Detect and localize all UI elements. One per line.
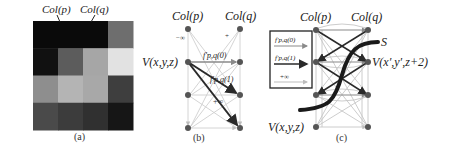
legend-label-f0: f′p,q(0): [275, 36, 296, 44]
surface-label-s: S: [381, 35, 387, 49]
intensity-grid: [33, 21, 134, 131]
grid-cell: [33, 48, 59, 76]
grid-cell: [33, 21, 59, 49]
grid-cell: [58, 21, 84, 49]
edge-inf: [188, 62, 237, 125]
grid-cell: [33, 76, 59, 104]
edge-label-f1: f′p,q(1): [210, 75, 234, 84]
panel-a: Col(p) Col(q) (a): [33, 3, 134, 143]
grid-cell: [83, 48, 109, 76]
grid-cell: [108, 103, 134, 131]
edge-label-f0: f′p,q(0): [203, 51, 227, 60]
col-q-label-a: Col(q): [80, 3, 109, 16]
grid-cell: [83, 76, 109, 104]
grid-cell: [108, 48, 134, 76]
col-q-label-c: Col(q): [351, 10, 382, 24]
grid-cell: [108, 76, 134, 104]
legend-label-f1: f′p,q(1): [275, 54, 296, 62]
col-p-label-b: Col(p): [172, 9, 203, 23]
panel-c: f′p,q(0) f′p,q(1) +∞: [268, 10, 428, 144]
minus-inf-label-b: −∞: [176, 34, 185, 42]
vertex-top-label-c: V(x′,y′,z+2): [372, 55, 428, 69]
col-q-pointer: [91, 15, 95, 22]
col-q-label-b: Col(q): [225, 9, 256, 23]
plus-label-top-b: +: [225, 32, 229, 40]
grid-cell: [58, 48, 84, 76]
col-p-pointer: [57, 15, 60, 22]
caption-b: (b): [193, 132, 205, 144]
caption-c: (c): [336, 132, 347, 144]
panel-b: −∞ + Col(p) Col(q) V(x,y,z) f′p,q(0) f′p…: [142, 9, 256, 144]
vertex-label-b: V(x,y,z): [142, 55, 178, 69]
grid-cell: [108, 21, 134, 49]
grid-cell: [83, 21, 109, 49]
grid-cell: [83, 103, 109, 131]
grid-cell: [58, 103, 84, 131]
legend-label-inf: +∞: [280, 73, 289, 81]
vertex-bottom-label-c: V(x,y,z): [268, 120, 304, 134]
caption-a: (a): [74, 131, 85, 143]
figure-canvas: Col(p) Col(q) (a) −∞ +: [0, 0, 452, 150]
col-p-label-c: Col(p): [300, 10, 331, 24]
grid-cell: [58, 76, 84, 104]
grid-cell: [33, 103, 59, 131]
col-p-label-a: Col(p): [42, 3, 71, 16]
edge-label-inf: +∞: [213, 97, 224, 106]
